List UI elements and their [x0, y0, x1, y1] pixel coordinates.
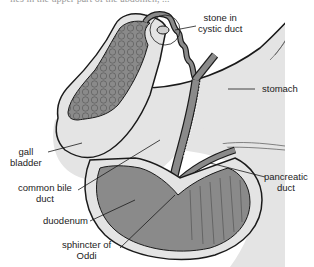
label-common-bile-duct: common bile duct [18, 183, 72, 204]
label-line: bladder [10, 158, 42, 169]
gallbladder-anatomy-diagram [0, 0, 314, 267]
label-line: cystic duct [198, 24, 242, 35]
stone-in-duct [157, 26, 169, 34]
label-pancreatic-duct: pancreatic duct [264, 172, 308, 193]
label-duodenum: duodenum [43, 216, 88, 227]
label-line: duct [18, 194, 72, 205]
label-line: duct [264, 183, 308, 194]
label-line: gall [10, 147, 42, 158]
label-line: common bile [18, 183, 72, 194]
label-gall-bladder: gall bladder [10, 147, 42, 168]
label-line: pancreatic [264, 172, 308, 183]
label-stomach: stomach [262, 84, 298, 95]
label-line: sphincter of [62, 240, 111, 251]
label-line: stone in [198, 13, 242, 24]
label-stone-in-cystic-duct: stone in cystic duct [198, 13, 242, 34]
label-line: Oddi [62, 251, 111, 262]
label-line: duodenum [43, 216, 88, 227]
label-sphincter-of-oddi: sphincter of Oddi [62, 240, 111, 261]
label-line: stomach [262, 84, 298, 95]
